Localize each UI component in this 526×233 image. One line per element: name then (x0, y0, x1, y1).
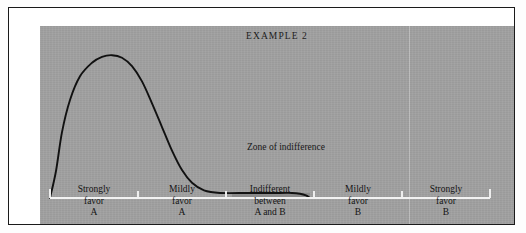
preference-distribution-curve (50, 55, 310, 198)
axis-label-line-3: A and B (226, 207, 314, 219)
axis-label-line-3: B (314, 207, 402, 219)
axis-label-line-1: Indifferent (226, 184, 314, 196)
x-axis-category-labels: Strongly favor A Mildly favor A Indiffer… (40, 184, 514, 224)
axis-label-line-1: Strongly (402, 184, 490, 196)
axis-label-line-3: B (402, 207, 490, 219)
axis-label-line-2: between (226, 196, 314, 208)
zone-label-line-1: Zone of (247, 142, 277, 152)
zone-label-line-2: indifference (279, 142, 325, 152)
axis-label-line-1: Mildly (314, 184, 402, 196)
axis-label-mildly-favor-b: Mildly favor B (314, 184, 402, 219)
axis-label-line-1: Mildly (138, 184, 226, 196)
chart-panel: EXAMPLE 2 Zone of indifference Strongly (40, 26, 514, 224)
figure-container: EXAMPLE 2 Zone of indifference Strongly (0, 0, 526, 233)
axis-label-line-3: A (50, 207, 138, 219)
axis-label-line-2: favor (138, 196, 226, 208)
axis-label-strongly-favor-a: Strongly favor A (50, 184, 138, 219)
axis-label-line-1: Strongly (50, 184, 138, 196)
axis-label-line-2: favor (314, 196, 402, 208)
axis-label-line-3: A (138, 207, 226, 219)
axis-label-line-2: favor (50, 196, 138, 208)
zone-of-indifference-label: Zone of indifference (231, 142, 341, 154)
axis-label-line-2: favor (402, 196, 490, 208)
figure-frame: EXAMPLE 2 Zone of indifference Strongly (8, 7, 515, 225)
axis-label-strongly-favor-b: Strongly favor B (402, 184, 490, 219)
axis-label-indifferent-between-a-and-b: Indifferent between A and B (226, 184, 314, 219)
axis-label-mildly-favor-a: Mildly favor A (138, 184, 226, 219)
